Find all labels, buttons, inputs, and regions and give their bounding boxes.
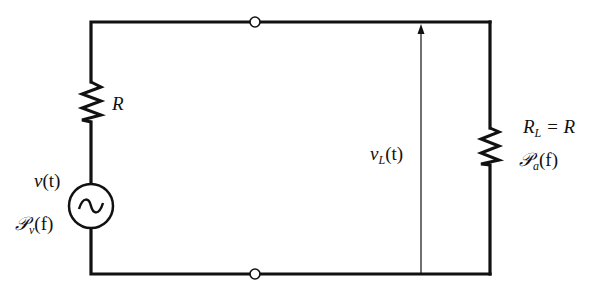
load-voltage-label: vL(t)	[370, 144, 403, 166]
source-resistor-icon	[82, 82, 101, 122]
circuit-diagram	[0, 0, 595, 292]
bottom-terminal-icon	[250, 269, 260, 279]
source-voltage-arg: (t)	[42, 170, 60, 191]
load-psd-var: 𝒫	[519, 148, 533, 170]
left-lower-wire	[91, 228, 250, 274]
source-psd-arg: (f)	[34, 213, 53, 234]
source-resistor-label-text: R	[112, 93, 124, 114]
load-voltage-arrow-icon	[418, 24, 425, 274]
top-terminal-icon	[250, 17, 260, 27]
source-psd-var: 𝒫	[15, 212, 29, 234]
source-resistor-label: R	[112, 94, 124, 113]
load-psd-label: 𝒫a(f)	[519, 150, 558, 172]
ac-source-icon	[69, 184, 113, 228]
wires	[91, 22, 490, 274]
load-voltage-arg: (t)	[385, 143, 403, 164]
source-voltage-label: v(t)	[34, 171, 60, 190]
load-resistor-rest: = R	[541, 116, 575, 137]
load-psd-arg: (f)	[539, 149, 558, 170]
load-resistor-label: RL = R	[523, 117, 575, 139]
left-upper-wire	[91, 22, 250, 82]
load-resistor-icon	[481, 128, 499, 165]
load-resistor-var: R	[523, 116, 535, 137]
source-psd-label: 𝒫v(f)	[15, 214, 53, 236]
